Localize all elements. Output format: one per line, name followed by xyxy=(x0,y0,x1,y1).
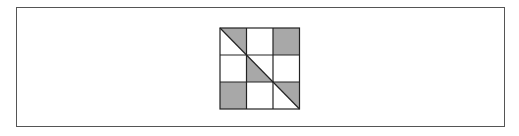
cell-2-0-full xyxy=(220,82,247,109)
grid-diagram xyxy=(219,27,301,111)
cell-0-2-full xyxy=(273,28,300,55)
